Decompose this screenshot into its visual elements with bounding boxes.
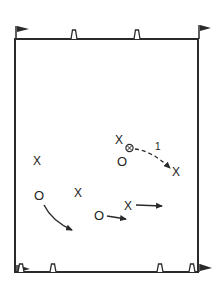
defender-marker: O (94, 208, 104, 223)
cone-icon (71, 30, 77, 39)
cone-icon (50, 264, 56, 272)
pass-arrow (135, 149, 170, 168)
attacker-marker: X (74, 186, 82, 200)
cone-icon (157, 264, 163, 272)
cone-icon (18, 264, 24, 272)
attacker-marker: X (115, 133, 123, 147)
cone-icon (134, 30, 140, 39)
run-arrow (136, 205, 162, 206)
ball-icon (126, 144, 133, 151)
drill-diagram: X X X X X O O O 1 (0, 0, 222, 297)
field-boundary (15, 39, 198, 272)
attacker-marker: X (33, 154, 41, 168)
run-arrow (44, 205, 72, 230)
run-arrow (107, 216, 126, 219)
attacker-marker: X (124, 199, 132, 213)
pass-number-label: 1 (155, 141, 161, 152)
bottom-right-flag-icon (199, 264, 212, 272)
attacker-marker: X (172, 165, 180, 179)
cone-icon (189, 264, 195, 272)
defender-marker: O (34, 188, 44, 203)
top-left-flag-icon (16, 26, 29, 39)
top-right-flag-icon (199, 25, 211, 39)
defender-marker: O (117, 154, 127, 169)
